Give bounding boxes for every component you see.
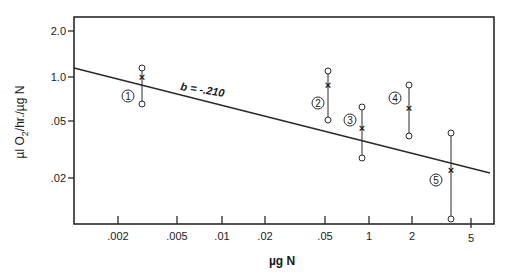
x-tick-label: .01 xyxy=(214,230,229,242)
svg-text:µl O2/hr./µg N: µl O2/hr./µg N xyxy=(13,86,30,159)
data-point-2: × 2 xyxy=(312,68,331,123)
x-tick-label: .02 xyxy=(257,230,272,242)
x-axis-title: µg N xyxy=(269,254,295,268)
x-tick-label: 2 xyxy=(409,230,415,242)
data-point-1: × 1 xyxy=(122,65,145,107)
point-label: 5 xyxy=(433,175,439,186)
y-axis: 2.0 1.0 .05 .02 xyxy=(51,25,74,184)
point-label: 2 xyxy=(315,98,321,109)
y-tick-label: .05 xyxy=(51,115,66,127)
svg-text:×: × xyxy=(406,102,412,114)
data-point-5: × 5 xyxy=(430,130,454,222)
svg-text:×: × xyxy=(325,79,331,91)
svg-text:×: × xyxy=(139,71,145,83)
svg-text:×: × xyxy=(359,122,365,134)
chart: 2.0 1.0 .05 .02 µl O2/hr./µg N .002 .005… xyxy=(0,0,506,279)
x-tick-label: 1 xyxy=(366,230,372,242)
x-tick-label: .005 xyxy=(166,230,187,242)
regression-line xyxy=(74,68,490,173)
y-axis-title: µl O2/hr./µg N xyxy=(13,86,30,159)
y-tick-label: 1.0 xyxy=(51,71,66,83)
x-tick-label: .002 xyxy=(107,230,128,242)
y-tick-label: .02 xyxy=(51,172,66,184)
point-label: 3 xyxy=(347,115,353,126)
x-axis: .002 .005 .01 .02 .05 1 2 5 xyxy=(107,216,474,244)
point-label: 1 xyxy=(125,91,131,102)
svg-text:×: × xyxy=(448,164,454,176)
data-point-3: × 3 xyxy=(344,104,365,161)
point-label: 4 xyxy=(392,93,398,104)
x-tick-label: 5 xyxy=(468,232,474,244)
data-point-4: × 4 xyxy=(389,82,412,139)
x-tick-label: .05 xyxy=(317,230,332,242)
y-tick-label: 2.0 xyxy=(51,25,66,37)
